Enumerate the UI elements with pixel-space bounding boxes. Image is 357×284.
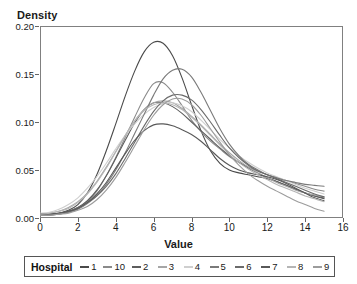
legend-item-label: 7 bbox=[272, 261, 277, 272]
x-tick-label: 0 bbox=[30, 222, 50, 233]
x-tick-label: 2 bbox=[68, 222, 88, 233]
density-curve bbox=[40, 124, 324, 214]
plot-area bbox=[40, 26, 343, 218]
x-tick-label: 8 bbox=[182, 222, 202, 233]
chart-root: Density 0.000.050.100.150.20 02468101214… bbox=[0, 0, 357, 284]
y-tick-mark bbox=[35, 74, 39, 75]
legend-item[interactable]: 2 bbox=[127, 261, 153, 272]
density-curve bbox=[40, 103, 324, 214]
legend-swatch bbox=[184, 266, 193, 268]
x-tick-mark bbox=[305, 218, 306, 222]
x-tick-mark bbox=[192, 218, 193, 222]
legend-swatch bbox=[132, 266, 141, 268]
legend-item-label: 3 bbox=[169, 261, 174, 272]
legend-item-label: 8 bbox=[298, 261, 303, 272]
x-tick-mark bbox=[40, 218, 41, 222]
legend-item-label: 1 bbox=[91, 261, 96, 272]
legend-swatch bbox=[287, 266, 296, 268]
density-curve bbox=[40, 41, 324, 214]
x-axis-label: Value bbox=[0, 238, 357, 250]
legend-item[interactable]: 8 bbox=[282, 261, 308, 272]
legend-swatch bbox=[313, 266, 322, 268]
legend-title: Hospital bbox=[25, 261, 75, 273]
legend: Hospital 11023456789 bbox=[24, 256, 335, 277]
x-tick-label: 14 bbox=[295, 222, 315, 233]
density-curve bbox=[40, 101, 324, 214]
legend-swatch bbox=[158, 266, 167, 268]
legend-swatch bbox=[261, 266, 270, 268]
legend-item[interactable]: 1 bbox=[75, 261, 101, 272]
legend-swatch bbox=[103, 266, 112, 268]
legend-item-label: 2 bbox=[143, 261, 148, 272]
x-tick-mark bbox=[78, 218, 79, 222]
legend-item[interactable]: 5 bbox=[205, 261, 231, 272]
legend-item-label: 4 bbox=[195, 261, 200, 272]
y-tick-label: 0.10 bbox=[0, 117, 34, 128]
legend-item-label: 9 bbox=[324, 261, 329, 272]
legend-items: 11023456789 bbox=[75, 261, 334, 272]
x-tick-label: 6 bbox=[144, 222, 164, 233]
x-tick-mark bbox=[116, 218, 117, 222]
legend-item[interactable]: 3 bbox=[153, 261, 179, 272]
legend-item-label: 10 bbox=[114, 261, 125, 272]
legend-item[interactable]: 10 bbox=[101, 261, 127, 272]
y-tick-label: 0.00 bbox=[0, 213, 34, 224]
legend-item[interactable]: 6 bbox=[231, 261, 257, 272]
density-curve bbox=[40, 94, 324, 214]
y-tick-mark bbox=[35, 170, 39, 171]
legend-item[interactable]: 4 bbox=[179, 261, 205, 272]
x-tick-label: 10 bbox=[219, 222, 239, 233]
x-tick-mark bbox=[154, 218, 155, 222]
y-tick-mark bbox=[35, 122, 39, 123]
legend-item[interactable]: 9 bbox=[308, 261, 334, 272]
y-tick-mark bbox=[35, 26, 39, 27]
x-tick-label: 4 bbox=[106, 222, 126, 233]
y-tick-mark bbox=[35, 218, 39, 219]
x-tick-mark bbox=[229, 218, 230, 222]
x-tick-mark bbox=[267, 218, 268, 222]
x-tick-label: 12 bbox=[257, 222, 277, 233]
density-curves bbox=[40, 26, 343, 218]
legend-swatch bbox=[80, 266, 89, 268]
legend-swatch bbox=[235, 266, 244, 268]
y-tick-label: 0.15 bbox=[0, 69, 34, 80]
legend-swatch bbox=[210, 266, 219, 268]
legend-item[interactable]: 7 bbox=[256, 261, 282, 272]
y-axis-label: Density bbox=[17, 9, 57, 21]
x-tick-label: 16 bbox=[333, 222, 353, 233]
x-tick-mark bbox=[343, 218, 344, 222]
legend-item-label: 6 bbox=[246, 261, 251, 272]
density-curve bbox=[40, 82, 324, 216]
y-tick-label: 0.20 bbox=[0, 21, 34, 32]
legend-item-label: 5 bbox=[221, 261, 226, 272]
y-tick-label: 0.05 bbox=[0, 165, 34, 176]
